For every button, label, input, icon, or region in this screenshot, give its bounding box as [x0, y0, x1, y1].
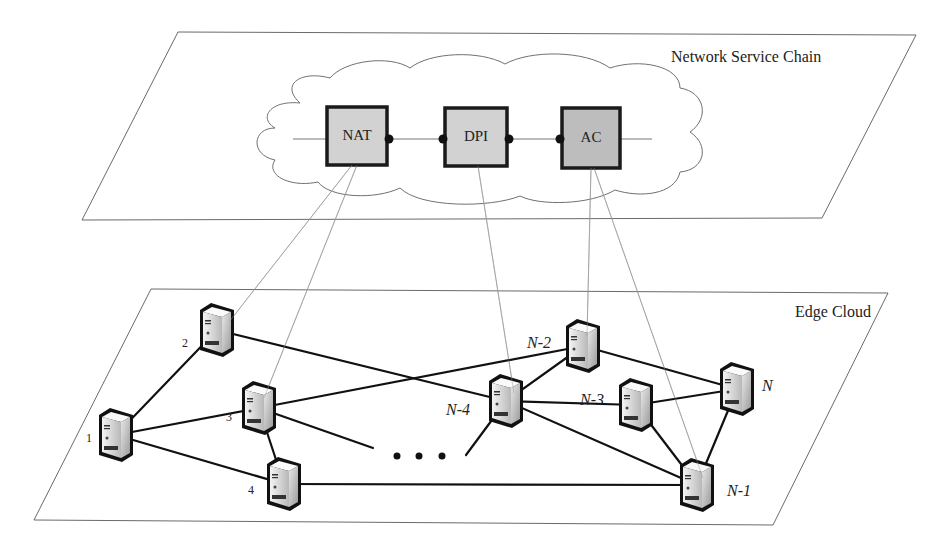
node-label-N-4: N-4: [445, 401, 470, 418]
port-out-icon: [505, 135, 514, 144]
node-label-3: 3: [226, 410, 232, 424]
vnf-dpi-box: DPI: [439, 108, 514, 166]
vnf-nat-label: NAT: [342, 127, 371, 143]
vnf-ac-box: AC: [556, 108, 621, 168]
node-label-4: 4: [248, 483, 254, 497]
vnf-nat-box: NAT: [327, 107, 394, 165]
node-label-N: N: [761, 377, 774, 394]
edge-cloud-label: Edge Cloud: [795, 303, 871, 321]
server-icon: [99, 408, 133, 462]
port-in-icon: [556, 135, 565, 144]
server-icon: [619, 378, 653, 432]
network-diagram: NATDPIAC 1234N-4N-2N-3NN-1 Network Servi…: [0, 0, 941, 546]
vnf-ac-label: AC: [581, 129, 602, 145]
node-label-1: 1: [86, 431, 92, 445]
server-icon: [680, 458, 714, 512]
node-label-N-3: N-3: [579, 391, 604, 408]
ellipsis-dot: [439, 453, 446, 460]
port-in-icon: [439, 135, 448, 144]
server-icon: [267, 457, 301, 511]
node-label-2: 2: [182, 336, 188, 350]
service-chain: NATDPIAC: [293, 107, 652, 168]
server-icon: [489, 374, 523, 428]
edge-4-N-1: [284, 484, 697, 485]
vnf-dpi-label: DPI: [464, 128, 488, 144]
port-out-icon: [385, 135, 394, 144]
ellipsis-dot: [394, 453, 401, 460]
network-service-chain-label: Network Service Chain: [671, 48, 821, 65]
ellipsis-dot: [416, 453, 423, 460]
node-label-N-1: N-1: [726, 482, 751, 499]
server-icon: [566, 319, 600, 373]
server-icon: [720, 362, 754, 416]
server-icon: [242, 381, 276, 435]
server-icon: [200, 303, 234, 357]
node-label-N-2: N-2: [526, 334, 551, 351]
